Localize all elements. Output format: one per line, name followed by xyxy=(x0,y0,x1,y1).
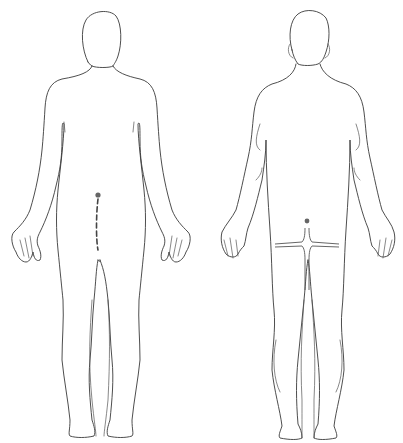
front-head-outline xyxy=(82,11,120,67)
front-right-fingers xyxy=(169,236,182,258)
back-head-outline xyxy=(290,11,329,66)
front-right-side-outline xyxy=(100,66,190,438)
back-left-fingers xyxy=(224,238,238,258)
back-right-fingers xyxy=(378,238,392,258)
front-inner-leg-right xyxy=(104,300,110,436)
body-diagram xyxy=(0,0,403,443)
back-shoulder-right xyxy=(356,124,360,150)
front-arm-crease-right xyxy=(133,122,134,132)
back-body-figure xyxy=(221,11,395,440)
body-diagram-svg xyxy=(0,0,403,443)
front-entry-dot xyxy=(95,192,100,197)
front-dashed-incision xyxy=(97,199,99,250)
back-shoulder-left xyxy=(256,124,260,150)
back-t-incision xyxy=(275,228,339,290)
back-entry-dot xyxy=(305,219,310,224)
back-elbow-right xyxy=(354,168,360,180)
back-elbow-left xyxy=(256,168,262,180)
front-left-side-outline xyxy=(12,66,98,438)
front-crotch xyxy=(98,260,100,262)
back-left-side-outline xyxy=(221,64,308,440)
back-right-side-outline xyxy=(308,64,395,440)
back-calf-left xyxy=(274,340,280,392)
front-body-figure xyxy=(12,11,190,437)
back-calf-right xyxy=(336,340,342,392)
front-left-fingers xyxy=(20,236,33,258)
